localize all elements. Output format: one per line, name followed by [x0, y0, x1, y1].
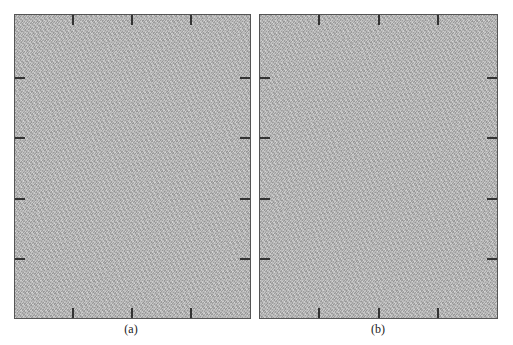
bottom-tick	[131, 308, 133, 318]
bottom-tick	[72, 308, 74, 318]
top-tick	[72, 15, 74, 25]
top-tick	[131, 15, 133, 25]
top-tick	[318, 15, 320, 25]
left-tick	[15, 198, 25, 200]
bottom-tick	[378, 308, 380, 318]
right-tick	[487, 258, 497, 260]
left-tick	[15, 258, 25, 260]
right-tick	[240, 77, 250, 79]
right-tick	[487, 198, 497, 200]
left-tick	[15, 77, 25, 79]
right-tick	[240, 137, 250, 139]
bottom-tick	[437, 308, 439, 318]
top-tick	[378, 15, 380, 25]
right-tick	[240, 258, 250, 260]
left-tick	[260, 198, 270, 200]
top-tick	[437, 15, 439, 25]
left-tick	[15, 137, 25, 139]
bottom-tick	[318, 308, 320, 318]
panel-b-noise-image	[259, 14, 498, 319]
right-tick	[240, 198, 250, 200]
left-tick	[260, 77, 270, 79]
top-tick	[190, 15, 192, 25]
left-tick	[260, 258, 270, 260]
panel-a-noise-image	[14, 14, 251, 319]
right-tick	[487, 137, 497, 139]
panel-a-caption: (a)	[124, 322, 137, 337]
right-tick	[487, 77, 497, 79]
left-tick	[260, 137, 270, 139]
panel-b-caption: (b)	[371, 322, 385, 337]
bottom-tick	[190, 308, 192, 318]
